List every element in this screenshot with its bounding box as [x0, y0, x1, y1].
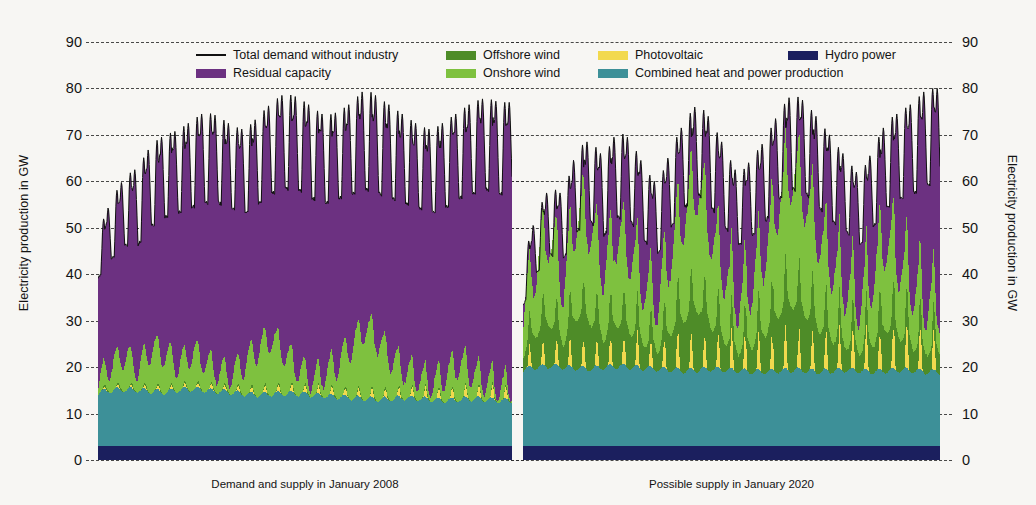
y-tick-label-right-90: 90	[962, 35, 996, 50]
y-tick-label-right-20: 20	[962, 360, 996, 375]
y-tick-label-right-60: 60	[962, 174, 996, 189]
figure-root: Electricity production in GW Electricity…	[0, 0, 1036, 505]
hydro-power-band	[523, 446, 940, 460]
y-tick-label-right-0: 0	[962, 453, 996, 468]
panel-caption-right: Possible supply in January 2020	[523, 478, 940, 490]
y-tick-label-left-0: 0	[48, 453, 82, 468]
y-tick-label-right-70: 70	[962, 128, 996, 143]
y-tick-label-right-30: 30	[962, 314, 996, 329]
chp-band	[523, 364, 940, 447]
chart-panel-left	[98, 42, 512, 460]
y-tick-label-left-10: 10	[48, 407, 82, 422]
y-tick-label-left-30: 30	[48, 314, 82, 329]
y-axis-title-right: Electricity production in GW	[1005, 123, 1019, 343]
panel-caption-left: Demand and supply in January 2008	[98, 478, 512, 490]
y-tick-label-left-20: 20	[48, 360, 82, 375]
y-tick-label-right-40: 40	[962, 267, 996, 282]
y-axis-title-left: Electricity production in GW	[17, 123, 31, 343]
chart-panel-right	[523, 42, 940, 460]
hydro-power-band	[98, 446, 512, 460]
y-tick-label-right-50: 50	[962, 221, 996, 236]
y-tick-label-right-10: 10	[962, 407, 996, 422]
y-tick-label-left-80: 80	[48, 81, 82, 96]
y-tick-label-left-60: 60	[48, 174, 82, 189]
y-tick-label-left-50: 50	[48, 221, 82, 236]
gridline-right-0	[511, 460, 952, 461]
y-tick-label-left-90: 90	[48, 35, 82, 50]
y-tick-label-left-40: 40	[48, 267, 82, 282]
y-tick-label-left-70: 70	[48, 128, 82, 143]
y-tick-label-right-80: 80	[962, 81, 996, 96]
gridline-left-0	[86, 460, 524, 461]
